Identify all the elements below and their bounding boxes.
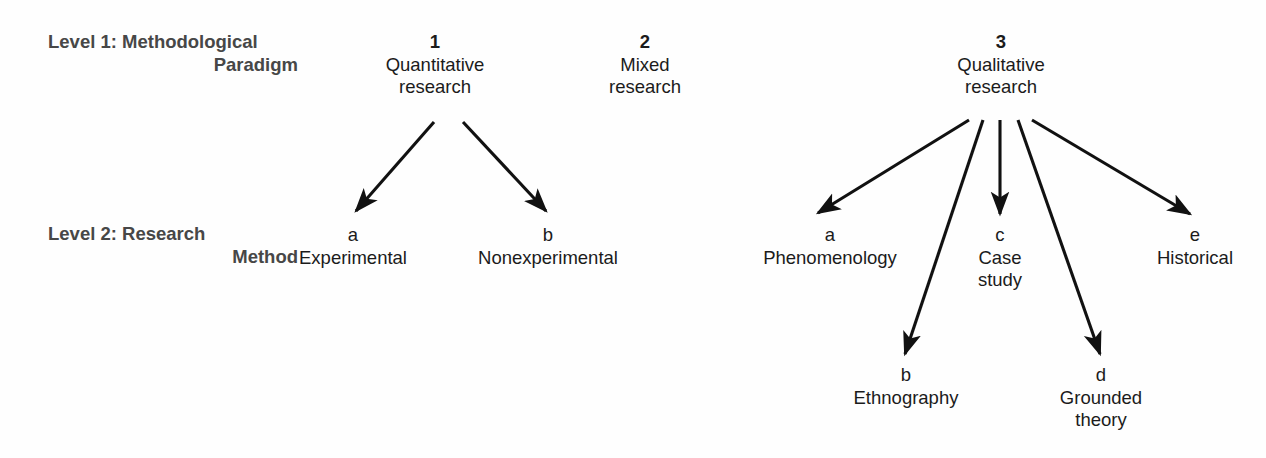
node-label-qualitative-research: Qualitative research	[930, 54, 1072, 99]
node-label-nonexperimental: Nonexperimental	[460, 247, 636, 270]
arrow-qualitative-to-historical	[1032, 120, 1190, 214]
node-label-ethnography: Ethnography	[828, 387, 984, 410]
node-label-line-1: Phenomenology	[742, 247, 918, 270]
node-label-mixed-research: Mixed research	[590, 54, 700, 99]
node-label-line-1: Nonexperimental	[460, 247, 636, 270]
node-label-line-1: Case	[940, 247, 1060, 270]
node-label-case-study: Case study	[940, 247, 1060, 292]
node-key-b-ethnography: b	[828, 364, 984, 387]
node-mixed-research[interactable]: 2 Mixed research	[590, 31, 700, 99]
arrow-quantitative-to-experimental	[356, 122, 434, 211]
node-label-line-1: Mixed	[590, 54, 700, 77]
node-key-2: 2	[590, 31, 700, 54]
node-key-a-experimental: a	[282, 224, 424, 247]
node-label-line-1: Experimental	[282, 247, 424, 270]
node-label-line-2: research	[930, 76, 1072, 99]
row-label-level-2-line-1: Level 2: Research	[48, 222, 298, 245]
node-label-line-2: research	[364, 76, 506, 99]
row-label-level-1-line-1: Level 1: Methodological	[48, 30, 298, 53]
node-label-line-1: Quantitative	[364, 54, 506, 77]
node-ethnography[interactable]: b Ethnography	[828, 364, 984, 409]
node-case-study[interactable]: c Case study	[940, 224, 1060, 292]
node-key-c-case-study: c	[940, 224, 1060, 247]
arrow-qualitative-to-phenomenology	[818, 120, 969, 213]
row-label-level-2: Level 2: Research Method	[48, 222, 298, 268]
node-label-line-1: Qualitative	[930, 54, 1072, 77]
node-quantitative-research[interactable]: 1 Quantitative research	[364, 31, 506, 99]
node-historical[interactable]: e Historical	[1126, 224, 1264, 269]
row-label-level-2-line-2: Method	[48, 245, 298, 268]
node-label-line-2: study	[940, 269, 1060, 292]
row-label-level-1-line-2: Paradigm	[48, 53, 298, 76]
node-label-line-2: theory	[1032, 409, 1170, 432]
node-experimental[interactable]: a Experimental	[282, 224, 424, 269]
node-key-1: 1	[364, 31, 506, 54]
node-label-line-1: Ethnography	[828, 387, 984, 410]
node-label-line-1: Grounded	[1032, 387, 1170, 410]
node-label-quantitative-research: Quantitative research	[364, 54, 506, 99]
node-label-line-1: Historical	[1126, 247, 1264, 270]
arrow-quantitative-to-nonexperimental	[463, 122, 546, 211]
diagram-canvas: Level 1: Methodological Paradigm Level 2…	[0, 0, 1266, 458]
node-nonexperimental[interactable]: b Nonexperimental	[460, 224, 636, 269]
node-grounded-theory[interactable]: d Grounded theory	[1032, 364, 1170, 432]
node-label-experimental: Experimental	[282, 247, 424, 270]
node-key-d-grounded-theory: d	[1032, 364, 1170, 387]
row-label-level-1: Level 1: Methodological Paradigm	[48, 30, 298, 76]
node-qualitative-research[interactable]: 3 Qualitative research	[930, 31, 1072, 99]
node-label-grounded-theory: Grounded theory	[1032, 387, 1170, 432]
node-label-phenomenology: Phenomenology	[742, 247, 918, 270]
node-label-line-2: research	[590, 76, 700, 99]
node-phenomenology[interactable]: a Phenomenology	[742, 224, 918, 269]
node-key-3: 3	[930, 31, 1072, 54]
node-key-a-phenomenology: a	[742, 224, 918, 247]
node-key-e-historical: e	[1126, 224, 1264, 247]
node-key-b-nonexperimental: b	[460, 224, 636, 247]
node-label-historical: Historical	[1126, 247, 1264, 270]
